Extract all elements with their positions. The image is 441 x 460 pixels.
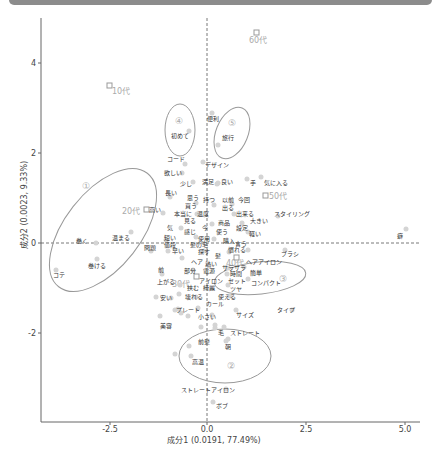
- word-label: 今回: [238, 196, 250, 204]
- word-label: 少し: [180, 180, 192, 187]
- cluster-ellipse-5: [207, 102, 257, 164]
- word-label: 思う: [187, 194, 199, 202]
- word-label: 巻く: [76, 237, 88, 244]
- y-axis-label: 成分2 (0.0023, 9.33%): [19, 161, 29, 249]
- word-label: 美容: [160, 322, 172, 330]
- word-label: 部分: [184, 267, 196, 275]
- word-label: スタイリング: [274, 210, 310, 218]
- word-label: 購入: [223, 237, 235, 245]
- word-label: デザイン: [205, 161, 229, 169]
- word-label: 便利: [207, 115, 219, 123]
- x-tick-neg2.5: -2.5: [102, 425, 118, 434]
- word-label: 大きい: [250, 217, 268, 225]
- word-label: 気: [167, 224, 173, 232]
- word-label: 前: [158, 266, 164, 274]
- x-tick-2.5: 2.5: [300, 425, 313, 434]
- word-label: 以前: [222, 196, 234, 204]
- word-label: 高温: [192, 358, 204, 366]
- word-label: ストレート: [230, 329, 260, 336]
- group-marker-50s: 50代: [263, 191, 287, 201]
- word-label: 初めて: [171, 132, 189, 140]
- word-label: 温度: [197, 210, 209, 218]
- svg-text:60代: 60代: [249, 35, 267, 45]
- word-label: 気に入る: [264, 179, 288, 187]
- word-label: 高い: [149, 206, 161, 214]
- word-label: コード: [167, 155, 185, 162]
- word-label: 今: [202, 224, 208, 232]
- word-label: 髪: [215, 252, 221, 260]
- word-label: ヘアアイロン: [246, 258, 282, 265]
- svg-text:10代: 10代: [112, 86, 130, 96]
- x-axis-label: 成分1 (0.0191, 77.49%): [167, 435, 260, 445]
- word-label: タイプ: [277, 306, 295, 313]
- word-label: コテ: [53, 271, 65, 279]
- x-tick-5: 5.0: [399, 425, 412, 434]
- x-tick-0: 0.0: [201, 425, 214, 434]
- word-label: 探す: [198, 248, 210, 256]
- y-tick-0: 0: [31, 239, 36, 248]
- word-label: 巻ける: [88, 262, 106, 270]
- word-label: 安い: [160, 294, 172, 302]
- word-label: プレート: [176, 306, 200, 313]
- word-label: カール: [206, 300, 224, 307]
- word-label: 買う: [185, 202, 197, 210]
- cluster-label-4: ④: [175, 116, 183, 126]
- word-label: 朝: [225, 343, 231, 351]
- y-tick-4: 4: [31, 59, 36, 68]
- word-label: アイロン: [199, 277, 223, 284]
- word-label: 見る: [184, 217, 196, 225]
- word-label: 前髪: [198, 338, 210, 346]
- word-label: サイズ: [236, 311, 254, 318]
- word-label: 慣れる: [228, 246, 246, 254]
- word-label: ブラシ: [281, 250, 299, 257]
- word-label: 上がる: [157, 278, 175, 286]
- word-label: 毛: [218, 329, 224, 336]
- group-marker-60s: 60代: [249, 30, 267, 45]
- group-marker-10s: 10代: [107, 83, 130, 96]
- word-label: 持つ: [203, 196, 215, 204]
- word-label: 旅行: [222, 134, 234, 142]
- word-label: 綺麗: [203, 284, 215, 292]
- cluster-label-5: ⑤: [228, 118, 236, 128]
- word-label: 癖: [397, 232, 403, 240]
- word-label: 手: [250, 179, 256, 187]
- word-label: 設定: [236, 224, 248, 232]
- word-label: 軽い: [249, 230, 261, 238]
- word-label: 問題: [144, 244, 156, 252]
- word-label: 壊れる: [185, 293, 203, 301]
- word-label: 簡単: [250, 269, 262, 277]
- word-label: 長い: [165, 189, 177, 197]
- word-label: 挟む: [187, 284, 199, 292]
- group-marker-20s: 20代: [122, 206, 149, 216]
- word-label: コンパクト: [251, 279, 281, 286]
- cluster-label-2: ②: [227, 361, 235, 371]
- y-tick-neg2: -2: [28, 329, 36, 338]
- svg-text:50代: 50代: [269, 191, 287, 201]
- cluster-label-1: ①: [82, 181, 90, 191]
- word-label: 満足: [202, 178, 214, 186]
- word-label: 欲しい: [164, 169, 182, 177]
- word-label: ツヤ: [230, 285, 242, 292]
- svg-text:20代: 20代: [122, 206, 140, 216]
- correspondence-analysis-chart: 4 2 0 -2 -2.5 0.0 2.5 5.0 成分1 (0.0191, 7…: [0, 0, 441, 460]
- word-label: 商品: [218, 219, 230, 227]
- word-label: 早い: [172, 247, 184, 255]
- word-label: ヘア: [191, 258, 203, 265]
- word-label: 使う: [216, 228, 228, 236]
- cluster-ellipse-1: [29, 150, 178, 310]
- word-label: 良い: [221, 178, 233, 186]
- word-label: 出る: [222, 204, 234, 212]
- word-label: セット: [228, 277, 246, 284]
- word-label: 電源: [203, 267, 215, 275]
- word-label: ストレートアイロン: [181, 386, 235, 393]
- word-label: ボブ: [216, 402, 228, 409]
- word-label: 温まる: [112, 234, 130, 242]
- word-label: 小さい: [198, 313, 216, 321]
- word-label: 感じ: [184, 228, 196, 235]
- y-tick-2: 2: [31, 149, 36, 158]
